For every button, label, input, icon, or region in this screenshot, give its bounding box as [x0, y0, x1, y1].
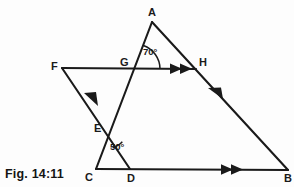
vertex-label-F: F — [51, 61, 58, 72]
geometry-canvas — [0, 0, 294, 187]
segment-D-F — [62, 68, 130, 169]
vertex-label-A: A — [148, 7, 156, 18]
arrow-marker-cb-2 — [231, 164, 243, 175]
vertex-label-E: E — [94, 123, 101, 134]
segment-C-B — [96, 169, 288, 170]
vertex-label-D: D — [127, 173, 135, 184]
arrow-marker-ab-1 — [208, 88, 223, 100]
vertex-label-G: G — [120, 57, 129, 68]
vertex-label-C: C — [85, 172, 93, 183]
vertex-label-H: H — [199, 57, 207, 68]
vertex-label-B: B — [284, 173, 292, 184]
angle-label-70: 70° — [143, 47, 157, 57]
figure-caption: Fig. 14:11 — [5, 168, 64, 181]
angle-label-50: 50° — [110, 142, 124, 152]
geometry-figure: A B C D E F G H 70° 50° Fig. 14:11 — [0, 0, 294, 187]
